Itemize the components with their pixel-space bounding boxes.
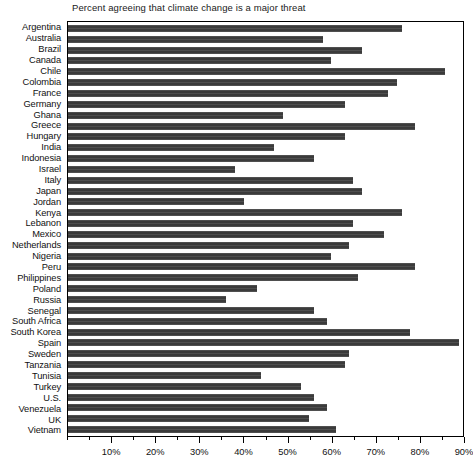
x-tick-label: 60%	[322, 446, 341, 458]
x-tick-label: 10%	[102, 446, 121, 458]
category-label: Philippines	[0, 272, 64, 283]
x-tick-major	[155, 437, 156, 443]
chart-title: Percent agreeing that climate change is …	[72, 2, 306, 14]
x-tick-label: 20%	[146, 446, 165, 458]
bar	[68, 101, 345, 108]
bar	[68, 144, 274, 151]
bar-row	[68, 413, 463, 424]
x-tick-major	[420, 437, 421, 443]
bar-row	[68, 131, 463, 142]
category-label: Lebanon	[0, 218, 64, 229]
category-label: South Africa	[0, 316, 64, 327]
x-tick-major	[111, 437, 112, 443]
category-label: Turkey	[0, 381, 64, 392]
x-tick-minor	[398, 437, 399, 440]
category-label: Israel	[0, 164, 64, 175]
bar	[68, 285, 257, 292]
category-label: Senegal	[0, 305, 64, 316]
bar	[68, 361, 345, 368]
bar-row	[68, 240, 463, 251]
x-tick-minor	[89, 437, 90, 440]
bar	[68, 79, 397, 86]
bar	[68, 318, 327, 325]
bars-container	[68, 23, 463, 435]
bar	[68, 166, 235, 173]
x-tick-major	[288, 437, 289, 443]
bar-row	[68, 348, 463, 359]
bar	[68, 177, 353, 184]
bar	[68, 220, 353, 227]
x-tick-label: 80%	[411, 446, 430, 458]
x-tick-minor	[310, 437, 311, 440]
category-label: Colombia	[0, 76, 64, 87]
bar-row	[68, 262, 463, 273]
bar-row	[68, 153, 463, 164]
bar-row	[68, 229, 463, 240]
bar-row	[68, 164, 463, 175]
category-label: Australia	[0, 33, 64, 44]
bar	[68, 36, 323, 43]
category-label: Netherlands	[0, 240, 64, 251]
bar-row	[68, 272, 463, 283]
bar-row	[68, 381, 463, 392]
x-tick-minor	[354, 437, 355, 440]
bar-row	[68, 121, 463, 132]
bar-row	[68, 66, 463, 77]
bar-row	[68, 197, 463, 208]
bar	[68, 47, 362, 54]
bar-row	[68, 294, 463, 305]
bar-row	[68, 142, 463, 153]
bar	[68, 394, 314, 401]
bar-row	[68, 370, 463, 381]
category-label: Poland	[0, 283, 64, 294]
bar-row	[68, 337, 463, 348]
bar	[68, 112, 283, 119]
bar-row	[68, 186, 463, 197]
bar	[68, 90, 388, 97]
x-tick-major	[199, 437, 200, 443]
bar-row	[68, 305, 463, 316]
bar-row	[68, 359, 463, 370]
bar-chart-figure: Percent agreeing that climate change is …	[0, 0, 473, 468]
bar	[68, 123, 415, 130]
category-label: Russia	[0, 294, 64, 305]
x-tick-label: 70%	[366, 446, 385, 458]
x-tick-major	[464, 437, 465, 443]
category-label: Spain	[0, 338, 64, 349]
bar	[68, 372, 261, 379]
bar	[68, 274, 358, 281]
category-label: Japan	[0, 185, 64, 196]
bar-row	[68, 283, 463, 294]
bar	[68, 296, 226, 303]
bar-row	[68, 175, 463, 186]
category-label: Tunisia	[0, 371, 64, 382]
bar-row	[68, 45, 463, 56]
bar	[68, 404, 327, 411]
category-label: Peru	[0, 262, 64, 273]
category-label: Mexico	[0, 229, 64, 240]
category-label: Ghana	[0, 109, 64, 120]
category-axis-labels: ArgentinaAustraliaBrazilCanadaChileColom…	[0, 22, 64, 436]
bar-row	[68, 327, 463, 338]
x-tick-minor	[133, 437, 134, 440]
bar-row	[68, 207, 463, 218]
bar	[68, 155, 314, 162]
x-tick-minor	[266, 437, 267, 440]
bar	[68, 198, 244, 205]
category-label: Greece	[0, 120, 64, 131]
bar	[68, 383, 301, 390]
category-label: Indonesia	[0, 153, 64, 164]
category-label: India	[0, 142, 64, 153]
bar-row	[68, 88, 463, 99]
bar	[68, 242, 349, 249]
category-label: France	[0, 87, 64, 98]
category-label: Tanzania	[0, 360, 64, 371]
bar	[68, 188, 362, 195]
category-label: U.S.	[0, 392, 64, 403]
bar	[68, 231, 384, 238]
bar-row	[68, 218, 463, 229]
bar-row	[68, 392, 463, 403]
bar	[68, 57, 331, 64]
x-axis-ticks	[67, 437, 464, 445]
bar-row	[68, 23, 463, 34]
